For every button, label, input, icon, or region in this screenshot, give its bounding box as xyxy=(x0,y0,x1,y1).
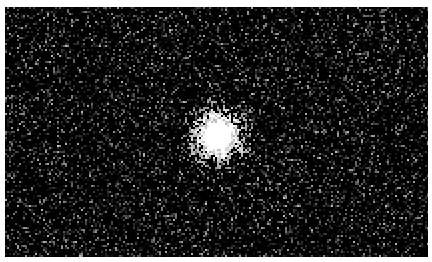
noise-field-image xyxy=(5,7,428,257)
star-image-canvas xyxy=(5,7,428,257)
